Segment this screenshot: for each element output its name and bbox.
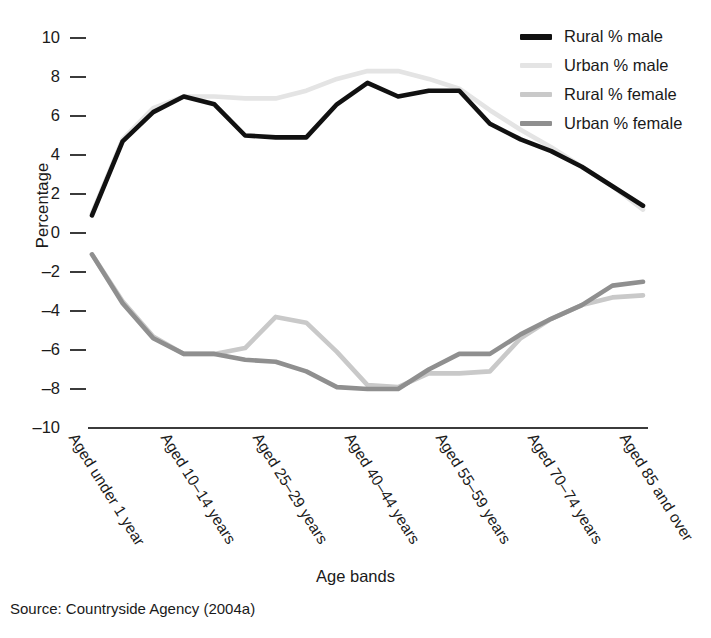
y-axis-tick-label: –4 (14, 302, 60, 319)
x-axis-tick-labels: Aged under 1 yearAged 10–14 yearsAged 25… (0, 430, 711, 590)
y-axis-title: Percentage (33, 126, 52, 286)
legend-color-swatch (520, 34, 552, 40)
figure-container: 1086420–2–4–6–8–10 Percentage Aged under… (0, 0, 711, 638)
y-axis-tick-label: –6 (14, 341, 60, 358)
legend-item[interactable]: Urban % male (520, 51, 710, 80)
legend-item-label: Urban % male (564, 56, 669, 75)
x-axis-tick-label: Aged 40–44 years (340, 430, 423, 548)
legend-item-label: Rural % female (564, 85, 677, 104)
chart-legend: Rural % maleUrban % maleRural % femaleUr… (520, 22, 710, 138)
x-axis-tick-label: Aged 85 and over (616, 430, 697, 545)
x-axis-tick-label: Aged 10–14 years (157, 430, 240, 548)
series-line (92, 254, 643, 389)
y-axis-tick-label: 6 (14, 107, 60, 124)
legend-item-label: Urban % female (564, 114, 682, 133)
legend-item-label: Rural % male (564, 27, 663, 46)
legend-item[interactable]: Rural % male (520, 22, 710, 51)
x-axis-title: Age bands (0, 567, 711, 586)
x-axis-tick-label: Aged 55–59 years (432, 430, 515, 548)
y-axis-tick-marks (70, 38, 86, 389)
y-axis-tick-label: 8 (14, 68, 60, 85)
x-axis-tick-label: Aged under 1 year (65, 430, 149, 549)
legend-color-swatch (520, 63, 552, 68)
legend-item[interactable]: Rural % female (520, 80, 710, 109)
source-note: Source: Countryside Agency (2004a) (10, 600, 255, 617)
y-axis-tick-label: 10 (14, 29, 60, 46)
x-axis-tick-label: Aged 25–29 years (248, 430, 331, 548)
series-line (92, 254, 643, 387)
legend-color-swatch (520, 121, 552, 126)
y-axis-tick-label: –8 (14, 380, 60, 397)
legend-color-swatch (520, 92, 552, 97)
legend-item[interactable]: Urban % female (520, 109, 710, 138)
x-axis-tick-label: Aged 70–74 years (524, 430, 607, 548)
